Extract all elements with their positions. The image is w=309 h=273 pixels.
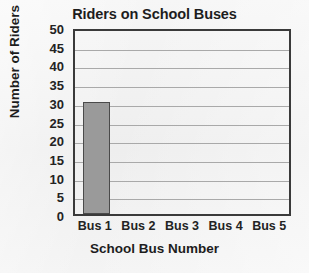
y-axis-tick-labels: 50454035302520151050 xyxy=(0,29,69,216)
y-axis-tick-label: 15 xyxy=(50,153,64,166)
x-axis-tick-label: Bus 1 xyxy=(78,219,112,233)
bar-bus-1 xyxy=(83,102,110,214)
y-axis-tick-label: 35 xyxy=(50,79,64,92)
y-axis-tick-label: 10 xyxy=(50,172,64,185)
x-axis-tick-label: Bus 2 xyxy=(121,219,155,233)
chart-title: Riders on School Buses xyxy=(0,6,309,22)
x-axis-tick-label: Bus 4 xyxy=(209,219,243,233)
y-axis-tick-label: 30 xyxy=(50,97,64,110)
plot-area xyxy=(73,29,291,216)
y-axis-tick-label: 20 xyxy=(50,135,64,148)
y-axis-tick-label: 45 xyxy=(50,41,64,54)
x-axis-title: School Bus Number xyxy=(0,241,309,256)
bar-series xyxy=(75,31,289,214)
x-axis-tick-label: Bus 3 xyxy=(165,219,199,233)
y-axis-tick-label: 0 xyxy=(57,210,64,223)
y-axis-tick-label: 40 xyxy=(50,60,64,73)
y-axis-tick-label: 50 xyxy=(50,23,64,36)
bar-chart: Riders on School Buses Number of Riders … xyxy=(0,0,309,273)
y-axis-tick-label: 25 xyxy=(50,116,64,129)
y-axis-tick-label: 5 xyxy=(57,191,64,204)
x-axis-tick-label: Bus 5 xyxy=(252,219,286,233)
x-axis-tick-labels: Bus 1Bus 2Bus 3Bus 4Bus 5 xyxy=(73,219,291,237)
